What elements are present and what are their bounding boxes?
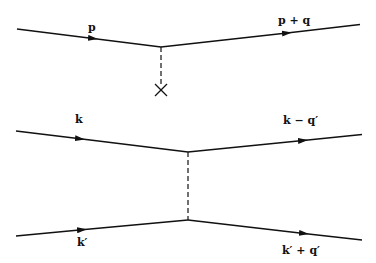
label-k: k xyxy=(75,114,83,125)
outgoing-k-prime-plus-q-line-rest xyxy=(304,234,362,241)
outgoing-k-minus-q-line-rest xyxy=(303,135,362,141)
outgoing-k-minus-q-line xyxy=(188,141,303,153)
feynman-diagrams: p p + q k k − q′ k′ k′ + q′ xyxy=(0,0,376,263)
outgoing-p-plus-q-line xyxy=(161,33,287,47)
scattering-diagram xyxy=(16,131,362,240)
label-k-minus-q-prime: k − q′ xyxy=(283,115,318,126)
outgoing-k-prime-plus-q-line xyxy=(188,220,304,234)
incoming-k-line-rest xyxy=(80,139,188,152)
label-p-plus-q: p + q xyxy=(278,15,310,26)
incoming-k-prime-line-rest xyxy=(82,220,188,230)
label-p: p xyxy=(88,22,96,33)
incoming-p-line-rest xyxy=(93,39,161,48)
incoming-k-line xyxy=(16,131,80,139)
cross-marker-icon xyxy=(155,84,167,96)
diagram-lines xyxy=(0,0,376,263)
external-potential-diagram xyxy=(17,25,360,97)
incoming-k-prime-line xyxy=(16,230,82,236)
label-k-prime: k′ xyxy=(77,237,88,248)
incoming-p-line xyxy=(17,29,93,39)
label-k-prime-plus-q-prime: k′ + q′ xyxy=(282,245,320,256)
